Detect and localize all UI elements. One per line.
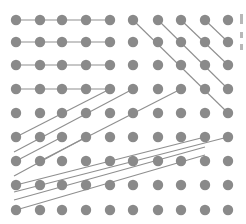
grid-dot <box>153 156 163 166</box>
grid-dot <box>200 132 210 142</box>
edge-mark <box>240 44 243 50</box>
grid-dot <box>153 60 163 70</box>
grid-dot <box>153 132 163 142</box>
grid-dot <box>200 156 210 166</box>
grid-dot <box>105 108 115 118</box>
grid-dot <box>176 180 186 190</box>
grid-dot <box>105 132 115 142</box>
grid-dots <box>11 15 233 215</box>
grid-dot <box>128 180 138 190</box>
grid-dot <box>176 108 186 118</box>
grid-dot <box>200 108 210 118</box>
grid-dot <box>153 15 163 25</box>
grid-dot <box>200 15 210 25</box>
grid-dot <box>35 84 45 94</box>
grid-dot <box>57 37 67 47</box>
grid-dot <box>81 60 91 70</box>
grid-dot <box>11 37 21 47</box>
grid-dot <box>128 205 138 215</box>
grid-dot <box>11 205 21 215</box>
grid-dot <box>223 108 233 118</box>
grid-dot <box>35 132 45 142</box>
grid-dot <box>35 60 45 70</box>
edge-mark <box>240 14 243 24</box>
grid-dot <box>223 60 233 70</box>
line-segment <box>14 89 133 152</box>
grid-dot <box>153 37 163 47</box>
connecting-lines <box>14 20 228 210</box>
grid-dot <box>105 84 115 94</box>
grid-dot <box>35 37 45 47</box>
grid-dot <box>11 84 21 94</box>
grid-dot <box>81 84 91 94</box>
grid-dot <box>128 15 138 25</box>
grid-dot <box>128 108 138 118</box>
grid-dot <box>35 15 45 25</box>
grid-dot <box>11 156 21 166</box>
grid-dot <box>57 205 67 215</box>
line-segment <box>14 147 205 200</box>
grid-dot <box>128 84 138 94</box>
grid-dot <box>200 60 210 70</box>
grid-dot <box>200 37 210 47</box>
grid-dot <box>105 180 115 190</box>
grid-dot <box>81 180 91 190</box>
grid-dot <box>57 132 67 142</box>
grid-dot <box>223 15 233 25</box>
grid-dot <box>223 180 233 190</box>
grid-dot <box>128 60 138 70</box>
grid-dot <box>176 205 186 215</box>
grid-dot <box>81 205 91 215</box>
dot-grid-diagram <box>0 0 246 224</box>
grid-dot <box>81 132 91 142</box>
grid-dot <box>11 60 21 70</box>
grid-dot <box>176 132 186 142</box>
grid-dot <box>153 108 163 118</box>
grid-dot <box>223 84 233 94</box>
grid-dot <box>153 84 163 94</box>
grid-dot <box>200 180 210 190</box>
grid-dot <box>11 180 21 190</box>
grid-dot <box>223 156 233 166</box>
grid-dot <box>105 37 115 47</box>
grid-dot <box>176 60 186 70</box>
grid-dot <box>223 205 233 215</box>
grid-dot <box>11 132 21 142</box>
grid-dot <box>35 180 45 190</box>
grid-dot <box>176 156 186 166</box>
grid-dot <box>35 156 45 166</box>
grid-dot <box>223 132 233 142</box>
grid-dot <box>11 15 21 25</box>
grid-dot <box>81 156 91 166</box>
grid-dot <box>57 156 67 166</box>
grid-dot <box>105 15 115 25</box>
grid-dot <box>57 84 67 94</box>
grid-dot <box>128 37 138 47</box>
grid-dot <box>105 205 115 215</box>
grid-dot <box>57 108 67 118</box>
grid-dot <box>200 205 210 215</box>
grid-dot <box>153 180 163 190</box>
grid-dot <box>81 37 91 47</box>
grid-dot <box>35 108 45 118</box>
grid-dot <box>105 156 115 166</box>
grid-dot <box>57 60 67 70</box>
grid-dot <box>81 108 91 118</box>
grid-dot <box>81 15 91 25</box>
grid-dot <box>128 156 138 166</box>
grid-dot <box>200 84 210 94</box>
grid-dot <box>105 60 115 70</box>
grid-dot <box>176 15 186 25</box>
grid-dot <box>223 37 233 47</box>
grid-dot <box>176 37 186 47</box>
grid-dot <box>35 205 45 215</box>
grid-dot <box>11 108 21 118</box>
edge-mark <box>240 32 243 38</box>
grid-dot <box>57 15 67 25</box>
grid-dot <box>57 180 67 190</box>
grid-dot <box>176 84 186 94</box>
grid-dot <box>128 132 138 142</box>
grid-dot <box>153 205 163 215</box>
